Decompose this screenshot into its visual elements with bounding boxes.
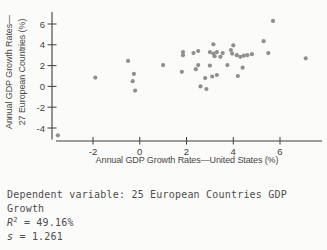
y-axis-tick-label: -2 (37, 102, 45, 113)
y-axis-tick-label: 4 (40, 39, 45, 50)
regression-caption: Dependent variable: 25 European Countrie… (7, 188, 322, 244)
data-point (198, 84, 202, 88)
caption-dependent-variable: Dependent variable: 25 European Countrie… (7, 188, 322, 202)
data-point (262, 39, 266, 43)
data-point (231, 43, 235, 47)
y-axis-title: Annual GDP Growth Rates— 27 European Cou… (3, 0, 29, 147)
scatter-plot-canvas: 6420-2-4-20246 (0, 0, 327, 172)
y-axis-tick-label: 2 (40, 60, 45, 71)
data-point (93, 76, 97, 80)
data-point (245, 53, 249, 57)
data-point (266, 51, 270, 55)
data-point (208, 64, 212, 68)
data-point (213, 54, 217, 58)
data-point (271, 19, 275, 23)
y-axis-tick-label: 6 (40, 19, 45, 30)
data-point (196, 49, 200, 53)
data-point (215, 73, 219, 77)
y-axis-title-line2: 27 European Countries (%) (16, 0, 29, 147)
data-point (241, 66, 245, 70)
data-point (225, 63, 229, 67)
data-point (210, 74, 214, 78)
x-axis-title: Annual GDP Growth Rates—United States (%… (52, 155, 322, 165)
data-point (230, 52, 234, 56)
data-point (196, 63, 200, 67)
data-point (181, 53, 185, 57)
data-point (126, 59, 130, 63)
data-point (131, 79, 135, 83)
data-point (194, 67, 198, 71)
data-point (215, 50, 219, 54)
data-point (133, 89, 137, 93)
y-axis-title-line1: Annual GDP Growth Rates— (3, 0, 16, 147)
data-point (56, 133, 60, 137)
data-point (221, 51, 225, 55)
data-point (132, 72, 136, 76)
y-axis-tick-label: -4 (37, 123, 45, 134)
data-point (229, 48, 233, 52)
figure: 6420-2-4-20246 Annual GDP Growth Rates— … (0, 0, 327, 250)
data-point (236, 74, 240, 78)
scatter-chart: 6420-2-4-20246 Annual GDP Growth Rates— … (0, 0, 327, 172)
data-point (304, 56, 308, 60)
data-point (211, 42, 215, 46)
caption-std-error: s = 1.261 (7, 230, 322, 244)
data-point (204, 87, 208, 91)
data-point (203, 76, 207, 80)
data-point (180, 70, 184, 74)
caption-dependent-variable-wrap: Growth (7, 202, 322, 216)
data-point (250, 52, 254, 56)
y-axis-tick-label: 0 (40, 81, 45, 92)
data-point (161, 63, 165, 67)
data-point (218, 55, 222, 59)
data-point (191, 51, 195, 55)
caption-r-squared: R2 = 49.16% (7, 216, 322, 230)
